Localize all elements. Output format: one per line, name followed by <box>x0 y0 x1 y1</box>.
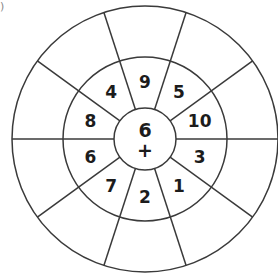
middle-ring-number: 5 <box>173 82 185 102</box>
center-number: 6 <box>138 119 151 141</box>
middle-ring-number: 2 <box>139 187 151 207</box>
middle-ring-number: 7 <box>105 176 117 196</box>
middle-ring-number: 4 <box>105 82 117 102</box>
middle-ring-number: 6 <box>84 147 96 167</box>
middle-ring-number: 10 <box>188 111 212 131</box>
middle-ring-number: 9 <box>139 72 151 92</box>
middle-ring-number: 1 <box>173 176 185 196</box>
middle-ring-number: 8 <box>84 111 96 131</box>
number-wheel-diagram: 95103127684 6 + <box>0 0 278 275</box>
center-operator: + <box>137 139 153 161</box>
middle-ring-number: 3 <box>194 147 206 167</box>
